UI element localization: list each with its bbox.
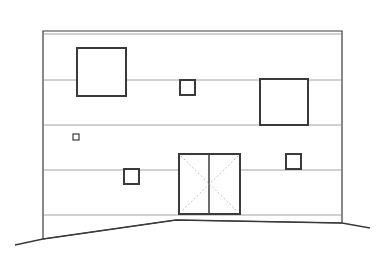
window-tiny-left (73, 134, 79, 140)
window-small-lower-right (286, 154, 301, 169)
window-small-upper-center (180, 80, 195, 95)
elevation-svg (0, 0, 387, 268)
wall-base (43, 220, 342, 239)
double-door (179, 154, 240, 214)
window-small-lower-left (124, 169, 139, 184)
window-large-upper-right (260, 79, 308, 125)
ground-line (15, 220, 370, 245)
window-large-upper-left (77, 48, 126, 96)
elevation-drawing (0, 0, 387, 268)
